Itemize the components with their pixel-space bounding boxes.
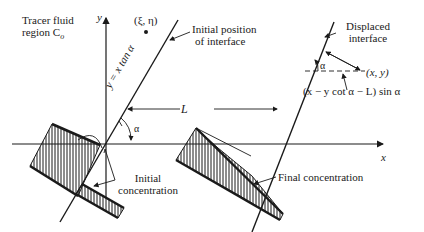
- alpha-upper-label: α: [320, 60, 325, 72]
- point-xy-label: (x, y): [366, 66, 389, 78]
- final-concentration-profile: [176, 128, 283, 220]
- y-axis-label: y: [97, 11, 102, 23]
- L-label: L: [181, 103, 188, 115]
- xi-eta-label: (ξ, η): [134, 14, 157, 26]
- alpha-lower-label: α: [134, 123, 139, 135]
- initial-concentration-profile-upper: [30, 124, 100, 196]
- distance-formula: (x − y cot α − L) sin α: [303, 85, 400, 97]
- x-axis-label: x: [381, 151, 386, 163]
- point-xi-eta: [144, 30, 148, 34]
- initial-interface-label: Initial position of interface: [192, 23, 256, 47]
- final-concentration-label: Final concentration: [278, 171, 363, 183]
- initial-concentration-label: Initial concentration: [116, 172, 180, 196]
- displaced-interface-label: Displaced interface: [346, 20, 390, 44]
- tracer-label: Tracer fluid region Co: [22, 14, 74, 43]
